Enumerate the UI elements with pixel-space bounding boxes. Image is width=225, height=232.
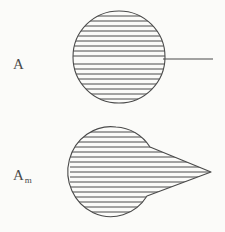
bottom-shape-hatching (70, 132, 215, 212)
bottom-figure-group (68, 127, 215, 217)
label-am-subscript: m (25, 175, 32, 185)
label-area-am: Am (13, 168, 32, 185)
top-circle-hatching (72, 16, 167, 99)
figure-canvas: A Am (0, 0, 225, 232)
label-am-base: A (13, 167, 24, 183)
top-figure-group (72, 11, 213, 103)
label-area-a: A (13, 57, 24, 72)
figure-drawing (0, 0, 225, 232)
label-a-base: A (13, 56, 24, 72)
